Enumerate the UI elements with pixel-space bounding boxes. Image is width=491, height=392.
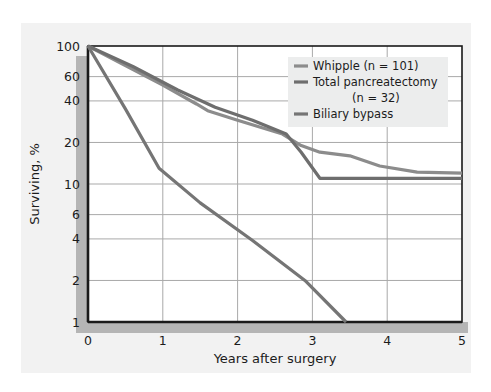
chart-legend: Whipple (n = 101)Total pancreatectomy(n …	[288, 57, 448, 127]
y-tick-label: 4	[72, 231, 80, 246]
legend-label: Total pancreatectomy	[312, 75, 438, 89]
x-axis-shadow	[76, 322, 468, 333]
x-tick-label: 3	[308, 333, 316, 348]
y-tick-label: 6	[72, 207, 80, 222]
y-axis-title: Surviving, %	[27, 143, 42, 225]
figure-container: 100604020106421 012345 Years after surge…	[0, 0, 491, 392]
x-tick-label: 0	[84, 333, 92, 348]
x-tick-label: 2	[234, 333, 242, 348]
x-axis-title: Years after surgery	[213, 351, 337, 366]
y-tick-label: 2	[72, 273, 80, 288]
y-tick-label: 20	[64, 135, 80, 150]
x-tick-labels: 012345	[84, 333, 466, 348]
y-tick-label: 10	[64, 177, 80, 192]
y-tick-label: 1	[72, 315, 80, 330]
chart-plot-area: 100604020106421 012345 Years after surge…	[0, 0, 491, 392]
y-tick-label: 40	[64, 93, 80, 108]
x-tick-label: 5	[458, 333, 466, 348]
x-tick-label: 1	[159, 333, 167, 348]
y-tick-label: 100	[56, 39, 80, 54]
legend-label: Biliary bypass	[313, 107, 393, 121]
legend-label: Whipple (n = 101)	[313, 59, 419, 73]
y-tick-labels: 100604020106421	[56, 39, 80, 330]
x-tick-label: 4	[383, 333, 391, 348]
survival-curve-chart: 100604020106421 012345 Years after surge…	[0, 0, 491, 392]
legend-label: (n = 32)	[352, 91, 400, 105]
y-tick-label: 60	[64, 69, 80, 84]
